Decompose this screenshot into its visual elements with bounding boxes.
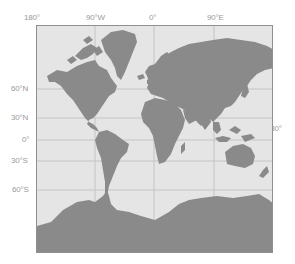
lon-label-180: 180°: [24, 13, 40, 22]
lon-label-0: 0°: [149, 13, 156, 22]
lat-label-60s: 60°S: [12, 185, 29, 194]
lat-label-0: 0°: [22, 135, 29, 144]
lon-label-90e: 90°E: [207, 13, 224, 22]
land: [37, 30, 273, 253]
lat-label-30n: 30°N: [11, 113, 28, 122]
lat-label-60n: 60°N: [11, 84, 28, 93]
lat-label-30s: 30°S: [11, 156, 28, 165]
lon-label-90w: 90°W: [86, 13, 105, 22]
map-frame: [36, 25, 273, 253]
map-canvas: [37, 26, 273, 253]
